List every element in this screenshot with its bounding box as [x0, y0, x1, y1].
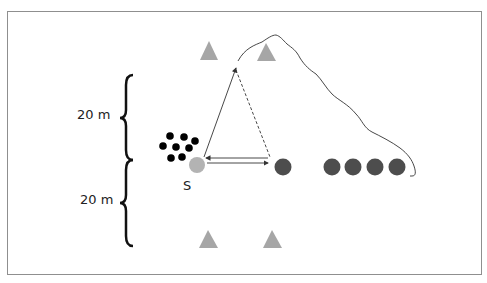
start-label: S: [183, 178, 191, 193]
cone-top-left-icon: [200, 41, 218, 60]
top-distance-label: 20 m: [77, 107, 110, 122]
cone-top-right-icon: [257, 43, 276, 61]
run-line: [204, 68, 236, 157]
brace-bottom-icon: [120, 160, 133, 246]
target-player-icon: [275, 159, 292, 176]
cone-bottom-right-icon: [263, 230, 282, 248]
waiting-players-icon: [324, 159, 406, 176]
brace-top-icon: [120, 75, 133, 160]
bottom-distance-label: 20 m: [80, 192, 113, 207]
cone-bottom-left-icon: [199, 230, 218, 248]
drill-diagram: [0, 0, 487, 283]
start-marker-icon: [189, 157, 205, 173]
ball-group-icon: [159, 132, 199, 162]
return-dashed-line: [236, 70, 270, 157]
